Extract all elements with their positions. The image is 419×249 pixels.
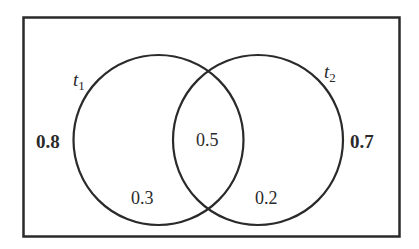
value-t2-only: 0.2 xyxy=(255,188,278,208)
value-t1-only: 0.3 xyxy=(131,188,154,208)
label-t1: t1 xyxy=(73,69,85,93)
value-t2-total: 0.7 xyxy=(350,131,374,152)
venn-diagram: t1 t2 0.8 0.7 0.5 0.3 0.2 xyxy=(0,0,419,249)
value-t1-total: 0.8 xyxy=(36,131,60,152)
label-t2: t2 xyxy=(324,61,336,85)
value-intersection: 0.5 xyxy=(196,130,219,150)
